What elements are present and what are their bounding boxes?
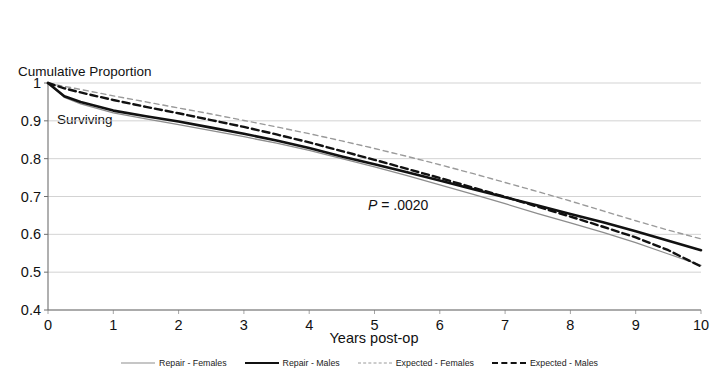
legend-line-icon-repair-females (121, 360, 155, 366)
chart-legend: Repair - Females Repair - Males Expected… (0, 358, 719, 368)
x-axis-title: Years post-op (330, 330, 419, 346)
legend-item-expected-females: Expected - Females (358, 358, 474, 368)
y-axis-tick-labels: 0.40.50.60.70.80.91 (21, 75, 41, 318)
x-tick-label: 0 (44, 317, 52, 333)
data-series-group (48, 83, 701, 266)
p-value-number: = .0020 (377, 197, 428, 213)
y-tick-label: 0.6 (21, 226, 41, 242)
y-tick-label: 0.8 (21, 151, 41, 167)
plot-area: 0.40.50.60.70.80.91 012345678910 Years p… (0, 0, 719, 378)
legend-line-icon-repair-males (245, 360, 279, 366)
series-line-repair-females (48, 83, 701, 265)
legend-item-expected-males: Expected - Males (492, 358, 598, 368)
x-tick-label: 10 (693, 317, 709, 333)
legend-line-icon-expected-females (358, 360, 392, 366)
x-tick-label: 4 (305, 317, 313, 333)
legend-label-repair-females: Repair - Females (159, 358, 226, 368)
series-line-expected-males (48, 83, 701, 266)
x-tick-label: 8 (566, 317, 574, 333)
x-tick-label: 3 (240, 317, 248, 333)
y-tick-label: 0.4 (21, 302, 41, 318)
y-tick-label: 0.9 (21, 113, 41, 129)
x-tick-label: 7 (501, 317, 509, 333)
x-tick-label: 2 (175, 317, 183, 333)
x-tick-label: 9 (632, 317, 640, 333)
legend-label-expected-females: Expected - Females (396, 358, 474, 368)
x-tick-label: 1 (109, 317, 117, 333)
y-tick-label: 0.7 (21, 189, 41, 205)
legend-label-expected-males: Expected - Males (530, 358, 598, 368)
y-tick-label: 0.5 (21, 264, 41, 280)
x-tick-label: 6 (436, 317, 444, 333)
survival-chart: Cumulative Proportion Surviving 0.40.50.… (0, 0, 719, 378)
y-tick-label: 1 (33, 75, 41, 91)
legend-item-repair-females: Repair - Females (121, 358, 226, 368)
p-value-annotation: P = .0020 (368, 197, 429, 213)
legend-line-icon-expected-males (492, 360, 526, 366)
legend-label-repair-males: Repair - Males (283, 358, 340, 368)
legend-item-repair-males: Repair - Males (245, 358, 340, 368)
